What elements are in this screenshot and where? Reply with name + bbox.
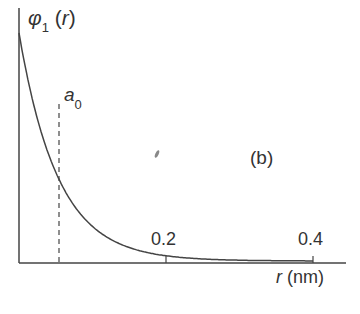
x-axis-label: r (nm) (276, 267, 324, 288)
x-tick-label-0.4: 0.4 (298, 229, 323, 250)
y-axis-arg-var: r (62, 6, 69, 29)
panel-label: (b) (250, 147, 273, 169)
x-tick-label-0.2: 0.2 (151, 229, 176, 250)
a0-label: a0 (64, 84, 82, 106)
smudge-mark (154, 150, 160, 159)
y-axis-label: φ1 (r) (28, 6, 76, 30)
